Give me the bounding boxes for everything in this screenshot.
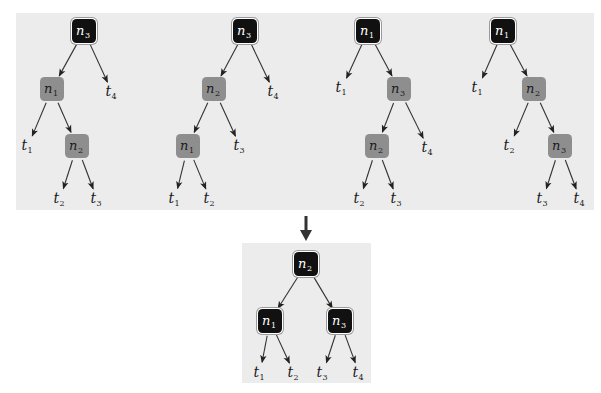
leaf-t3: t3 [390, 190, 401, 208]
edge-tree-4-r-a [510, 44, 527, 76]
leaf-t2: t2 [203, 190, 214, 208]
leaf-t4: t4 [352, 364, 363, 382]
edge-balanced-tree-b-t3 [326, 335, 335, 362]
leaf-label-t2: t2 [353, 190, 364, 208]
leaf-t4: t4 [421, 139, 432, 157]
edge-tree-1-a-t1 [32, 103, 46, 136]
edge-tree-2-a-b [194, 103, 208, 133]
leaf-t1: t1 [471, 79, 482, 97]
leaf-label-t2: t2 [203, 190, 214, 208]
edge-tree-2-r-a [221, 44, 238, 76]
edge-tree-1-a-b [58, 103, 71, 133]
edge-tree-2-b-t2 [194, 160, 206, 189]
leaf-label-t1: t1 [21, 137, 32, 155]
edge-balanced-tree-a-t2 [276, 335, 289, 363]
edge-tree-2-b-t1 [178, 161, 185, 189]
transition-arrow-icon [300, 216, 312, 241]
balanced-tree: n2n1n3t1t2t3t4 [253, 250, 363, 382]
leaf-label-t4: t4 [573, 190, 584, 208]
leaf-t4: t4 [105, 83, 116, 101]
leaf-label-t4: t4 [352, 364, 363, 382]
leaf-t2: t2 [503, 137, 514, 155]
tree-2: n3n2n1t4t3t1t2 [168, 17, 278, 208]
edge-tree-3-b-t2 [363, 160, 372, 188]
edge-tree-1-r-a [59, 44, 77, 76]
leaf-label-t3: t3 [90, 190, 101, 208]
leaf-t2: t2 [53, 190, 64, 208]
edge-balanced-tree-b-t4 [345, 335, 355, 363]
leaf-t3: t3 [90, 190, 101, 208]
tree-1: n3n1n2t4t1t2t3 [21, 17, 116, 208]
leaf-label-t1: t1 [471, 79, 482, 97]
edge-balanced-tree-a-t1 [262, 336, 267, 362]
leaf-t3: t3 [316, 364, 327, 382]
leaf-label-t1: t1 [253, 364, 264, 382]
leaf-label-t4: t4 [421, 139, 432, 157]
leaf-label-t3: t3 [233, 137, 244, 155]
leaf-t1: t1 [335, 79, 346, 97]
nodes-layer: n3n1n2t4t1t2t3n3n2n1t4t3t1t2n1n3n2t1t4t2… [21, 17, 584, 382]
edge-tree-3-a-b [382, 103, 393, 132]
leaf-t3: t3 [233, 137, 244, 155]
leaf-label-t3: t3 [316, 364, 327, 382]
edge-tree-3-r-a [375, 44, 392, 76]
leaf-t2: t2 [287, 364, 298, 382]
edge-tree-4-r-t1 [482, 45, 497, 78]
edge-tree-4-a-b [540, 103, 554, 133]
edge-tree-1-b-t3 [82, 160, 93, 189]
leaf-label-t4: t4 [105, 83, 116, 101]
edge-tree-4-b-t4 [565, 160, 576, 189]
leaf-label-t3: t3 [536, 190, 547, 208]
leaf-label-t2: t2 [53, 190, 64, 208]
leaf-t3: t3 [536, 190, 547, 208]
edge-tree-3-b-t3 [382, 160, 393, 189]
leaf-label-t2: t2 [503, 137, 514, 155]
edge-tree-2-a-t3 [220, 103, 235, 136]
leaf-label-t2: t2 [287, 364, 298, 382]
edge-balanced-tree-r-a [278, 277, 298, 309]
leaf-label-t3: t3 [390, 190, 401, 208]
tree-3: n1n3n2t1t4t2t3 [335, 17, 432, 208]
edge-tree-4-a-t2 [514, 103, 528, 136]
edge-tree-2-r-t4 [251, 45, 269, 83]
edge-tree-3-r-t1 [347, 45, 362, 78]
leaf-t2: t2 [353, 190, 364, 208]
leaf-t4: t4 [267, 83, 278, 101]
leaf-t1: t1 [253, 364, 264, 382]
edge-tree-4-b-t3 [546, 160, 555, 188]
leaf-label-t1: t1 [168, 190, 179, 208]
leaf-t1: t1 [21, 137, 32, 155]
edge-balanced-tree-r-b [314, 277, 333, 308]
leaf-label-t4: t4 [267, 83, 278, 101]
leaf-label-t1: t1 [335, 79, 346, 97]
leaf-t4: t4 [573, 190, 584, 208]
edge-tree-1-r-t4 [90, 45, 107, 82]
leaf-t1: t1 [168, 190, 179, 208]
tree-diagram: n3n1n2t4t1t2t3n3n2n1t4t3t1t2n1n3n2t1t4t2… [0, 0, 601, 393]
edge-tree-1-b-t2 [63, 160, 72, 188]
edge-tree-3-a-t4 [406, 102, 424, 138]
tree-4: n1n2n3t1t2t3t4 [471, 17, 584, 208]
